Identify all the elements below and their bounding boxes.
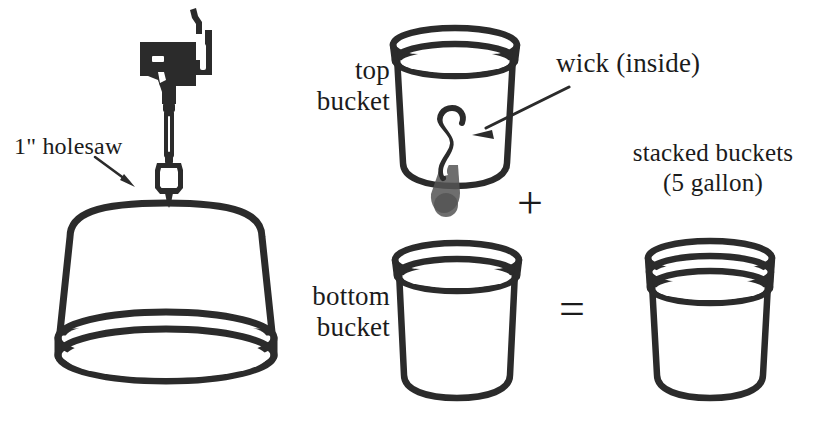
inverted-bucket-illustration (58, 203, 274, 381)
plus-operator: + (517, 180, 543, 226)
cordless-drill-icon (140, 8, 212, 208)
bottom-bucket-illustration (395, 243, 519, 398)
label-stacked-buckets: stacked buckets (5 gallon) (606, 138, 820, 197)
equals-operator: = (559, 286, 585, 332)
label-stacked-line1: stacked buckets (633, 139, 794, 166)
label-top-bucket: top bucket (292, 55, 390, 118)
diagram-canvas: 1" holesaw top bucket wick (inside) stac… (0, 0, 823, 425)
label-wick: wick (inside) (556, 48, 700, 79)
label-holesaw: 1" holesaw (14, 133, 122, 161)
label-stacked-line2: (5 gallon) (663, 169, 763, 196)
holesaw-callout-arrow (95, 157, 135, 187)
stacked-buckets-illustration (648, 241, 772, 398)
label-bottom-bucket: bottom bucket (276, 281, 390, 344)
